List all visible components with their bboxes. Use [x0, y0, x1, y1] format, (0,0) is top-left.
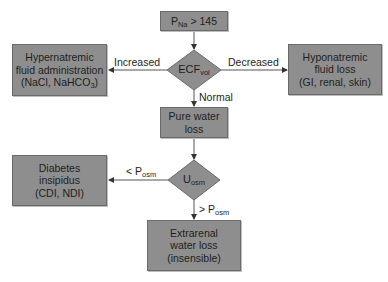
hyponatremic-line-2: fluid loss: [315, 63, 356, 76]
pure-water-line-2: loss: [185, 123, 204, 136]
less-posm-sub: osm: [142, 170, 156, 179]
hypernatremic-line-1: Hypernatremic: [25, 51, 93, 64]
hyponatremic-line-3: (GI, renal, skin): [299, 76, 371, 89]
start-node-sub: Na: [178, 20, 188, 29]
pure-water-line-1: Pure water: [169, 110, 220, 123]
start-node-pna: PNa > 145: [160, 11, 228, 31]
edge-label-greater-posm: > Posm: [199, 203, 229, 215]
edge-label-increased: Increased: [114, 56, 160, 68]
hyponatremic-line-1: Hyponatremic: [303, 51, 368, 64]
extrarenal-line-2: water loss: [170, 239, 217, 252]
diabetes-line-3: (CDI, NDI): [35, 187, 84, 200]
hypernatremic-line-2: fluid administration: [16, 64, 104, 77]
less-posm-prefix: < P: [126, 165, 142, 177]
hypernatremic-line-3: (NaCl, NaHCO: [21, 76, 90, 88]
diabetes-insipidus-node: Diabetes insipidus (CDI, NDI): [12, 155, 107, 206]
start-node-main: P: [171, 15, 178, 27]
hypernatremic-node: Hypernatremic fluid administration (NaCl…: [12, 44, 107, 96]
uosm-decision-label: Uosm: [168, 173, 220, 185]
edge-label-normal: Normal: [199, 91, 233, 103]
greater-posm-sub: osm: [215, 208, 229, 217]
diabetes-line-2: insipidus: [39, 174, 80, 187]
uosm-main: U: [183, 173, 191, 185]
start-node-rest: > 145: [188, 15, 218, 27]
uosm-sub: osm: [191, 178, 205, 187]
edge-label-less-posm: < Posm: [126, 165, 156, 177]
pure-water-loss-node: Pure water loss: [160, 107, 228, 138]
edge-label-decreased: Decreased: [228, 56, 279, 68]
diabetes-line-1: Diabetes: [39, 162, 80, 175]
ecf-decision-label: ECFvol: [167, 63, 221, 75]
greater-posm-prefix: > P: [199, 203, 215, 215]
extrarenal-line-3: (insensible): [167, 252, 221, 265]
extrarenal-water-loss-node: Extrarenal water loss (insensible): [147, 220, 241, 271]
hyponatremic-node: Hyponatremic fluid loss (GI, renal, skin…: [288, 44, 382, 95]
hypernatremic-close: ): [95, 76, 99, 88]
ecf-sub: vol: [200, 68, 210, 77]
extrarenal-line-1: Extrarenal: [170, 227, 218, 240]
ecf-main: ECF: [178, 63, 200, 75]
